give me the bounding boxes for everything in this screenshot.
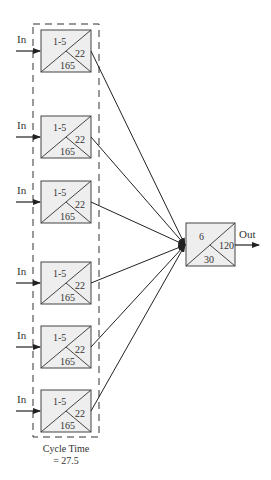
station-right-value: 22 (75, 48, 85, 59)
final-station: 6 120 30 (186, 223, 235, 266)
station-box: 1-522165In (16, 390, 91, 432)
input-label: In (17, 184, 27, 196)
flow-connector (91, 245, 185, 411)
cycle-time-label: Cycle Time (43, 443, 90, 454)
station-bottom-value: 165 (60, 420, 75, 431)
station-top-value: 1-5 (53, 187, 66, 198)
station-right-value: 22 (75, 408, 85, 419)
station-box: 1-522165In (16, 181, 91, 223)
final-station-top-value: 6 (199, 231, 204, 242)
flow-connector (91, 245, 185, 283)
station-box: 1-522165In (16, 116, 91, 158)
station-box: 1-522165In (16, 262, 91, 304)
station-box: 1-522165In (16, 30, 91, 72)
station-top-value: 1-5 (53, 332, 66, 343)
final-station-bottom-value: 30 (204, 254, 214, 265)
assembly-line-diagram: 1-522165In1-522165In1-522165In1-522165In… (0, 0, 271, 480)
station-top-value: 1-5 (53, 268, 66, 279)
station-bottom-value: 165 (60, 146, 75, 157)
station-right-value: 22 (75, 280, 85, 291)
station-bottom-value: 165 (60, 292, 75, 303)
station-top-value: 1-5 (53, 122, 66, 133)
station-top-value: 1-5 (53, 396, 66, 407)
output-label: Out (239, 228, 256, 240)
station-right-value: 22 (75, 134, 85, 145)
flow-connector (91, 245, 185, 347)
input-label: In (17, 329, 27, 341)
station-bottom-value: 165 (60, 356, 75, 367)
station-right-value: 22 (75, 199, 85, 210)
parallel-group-boundary (33, 24, 99, 437)
station-box: 1-522165In (16, 326, 91, 368)
input-label: In (17, 119, 27, 131)
input-label: In (17, 393, 27, 405)
station-bottom-value: 165 (60, 60, 75, 71)
input-label: In (17, 33, 27, 45)
flow-connector (91, 137, 185, 245)
cycle-time-value: = 27.5 (53, 455, 79, 466)
flow-connector (91, 202, 185, 245)
flow-connector (91, 51, 185, 245)
input-label: In (17, 265, 27, 277)
final-station-right-value: 120 (219, 240, 234, 251)
station-bottom-value: 165 (60, 211, 75, 222)
station-right-value: 22 (75, 344, 85, 355)
station-top-value: 1-5 (53, 36, 66, 47)
